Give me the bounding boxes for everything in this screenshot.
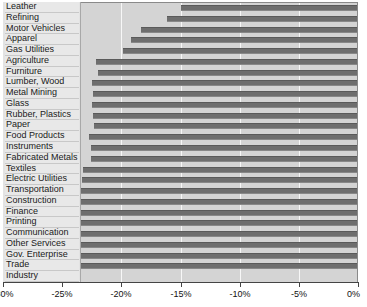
bar [96, 59, 357, 65]
category-label: Furniture [5, 67, 79, 78]
x-tick [240, 282, 241, 287]
bar [93, 113, 357, 119]
category-label: Construction [5, 196, 79, 207]
x-tick [3, 282, 4, 287]
x-tick-label: -25% [51, 289, 72, 299]
bar [94, 123, 357, 129]
bar [167, 16, 357, 22]
category-label: Textiles [5, 164, 79, 175]
x-tick [181, 282, 182, 287]
bar [123, 48, 357, 54]
category-label: Metal Mining [5, 88, 79, 99]
x-tick [299, 282, 300, 287]
category-label: Rubber, Plastics [5, 110, 79, 121]
category-label: Apparel [5, 34, 79, 45]
bar [63, 231, 357, 237]
bar [70, 199, 357, 205]
bar [61, 242, 357, 248]
x-tick-label: -5% [291, 289, 307, 299]
category-label: Finance [5, 207, 79, 218]
bar [83, 167, 357, 173]
category-label-column: LeatherRefiningMotor VehiclesApparelGas … [3, 2, 81, 282]
bar [131, 37, 357, 43]
category-label: Transportation [5, 185, 79, 196]
bar [63, 263, 357, 269]
category-label: Fabricated Metals [5, 153, 79, 164]
category-label: Lumber, Wood [5, 77, 79, 88]
category-label: Paper [5, 120, 79, 131]
x-tick [62, 282, 63, 287]
x-tick [121, 282, 122, 287]
bar [92, 102, 357, 108]
bar [57, 253, 357, 259]
category-label: Motor Vehicles [5, 24, 79, 35]
category-label: Instruments [5, 142, 79, 153]
bar [91, 156, 357, 162]
horizontal-bar-chart: LeatherRefiningMotor VehiclesApparelGas … [0, 0, 367, 307]
x-tick-label: -20% [110, 289, 131, 299]
category-label: Industry [5, 271, 79, 282]
bar [92, 80, 357, 86]
x-tick-label: -10% [229, 289, 250, 299]
x-tick-label: -15% [170, 289, 191, 299]
category-label: Agriculture [5, 56, 79, 67]
category-label: Other Services [5, 239, 79, 250]
category-label: Electric Utilities [5, 174, 79, 185]
x-tick [358, 282, 359, 287]
category-label: Leather [5, 2, 79, 13]
bar [72, 210, 357, 216]
bar [141, 27, 357, 33]
bar [93, 91, 357, 97]
category-label: Refining [5, 13, 79, 24]
bar [98, 70, 357, 76]
category-label: Gas Utilities [5, 45, 79, 56]
category-label: Communication [5, 228, 79, 239]
category-label: Glass [5, 99, 79, 110]
bar [82, 177, 357, 183]
bar [68, 220, 357, 226]
x-tick-label: -30% [0, 289, 14, 299]
bar [81, 188, 357, 194]
bar [89, 134, 357, 140]
category-label: Trade [5, 260, 79, 271]
bar [181, 5, 358, 11]
x-tick-label: 0% [347, 289, 360, 299]
category-label: Gov. Enterprise [5, 250, 79, 261]
category-label: Printing [5, 217, 79, 228]
bar [91, 145, 357, 151]
category-label: Food Products [5, 131, 79, 142]
